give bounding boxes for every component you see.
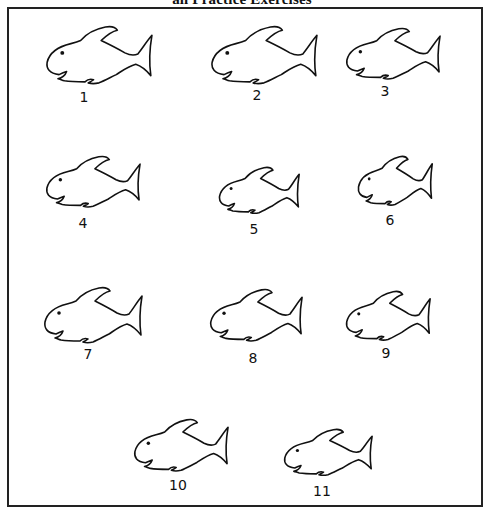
fish-number-label: 6 [386, 213, 395, 227]
fish-eye [368, 177, 371, 180]
fish-drawing-9 [345, 290, 431, 343]
fish-number-label: 11 [313, 484, 331, 498]
fish-eye [60, 51, 64, 55]
fish-outline-icon [45, 25, 153, 87]
fish-outline-icon [357, 155, 433, 208]
fish-eye [225, 51, 229, 55]
fish-drawing-8 [209, 288, 303, 344]
fish-eye [59, 178, 62, 181]
fish-eye [147, 442, 150, 445]
fish-number-label: 1 [80, 90, 89, 104]
fish-number-label: 5 [250, 222, 259, 236]
fish-eye [230, 187, 233, 190]
fish-number-label: 3 [381, 84, 390, 98]
fish-drawing-4 [45, 155, 141, 210]
fish-eye [296, 449, 299, 452]
fish-eye [57, 311, 61, 315]
fish-outline-icon [218, 166, 300, 216]
fish-drawing-7 [43, 286, 143, 346]
fish-drawing-10 [133, 418, 229, 474]
fish-number-label: 9 [382, 346, 391, 360]
fish-drawing-6 [357, 155, 433, 208]
fish-eye [357, 312, 360, 315]
fish-outline-icon [133, 418, 229, 474]
fish-number-label: 4 [79, 216, 88, 230]
fish-outline-icon [210, 25, 318, 87]
fish-number-label: 8 [249, 351, 258, 365]
fish-drawing-11 [283, 428, 373, 478]
fish-outline-icon [345, 290, 431, 343]
fish-drawing-3 [345, 27, 441, 82]
fish-number-label: 2 [253, 88, 262, 102]
fish-outline-icon [209, 288, 303, 344]
fish-outline-icon [283, 428, 373, 478]
fish-number-label: 7 [84, 347, 93, 361]
fish-number-label: 10 [169, 478, 187, 492]
fish-drawing-1 [45, 25, 153, 87]
fish-eye [222, 312, 225, 315]
fish-outline-icon [43, 286, 143, 346]
fish-drawing-2 [210, 25, 318, 87]
fish-drawing-5 [218, 166, 300, 216]
fish-outline-icon [45, 155, 141, 210]
fish-eye [359, 50, 362, 53]
fish-outline-icon [345, 27, 441, 82]
